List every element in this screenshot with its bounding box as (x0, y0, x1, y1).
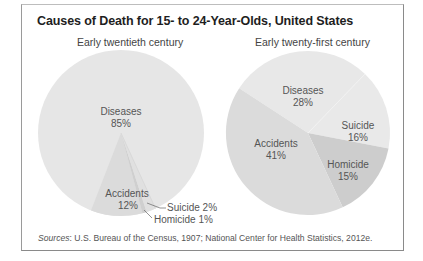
right-label-suicide-name: Suicide (342, 120, 375, 131)
source-prefix: Sources (38, 233, 70, 243)
pie-charts: Diseases 85% Accidents 12% Suicide 2% Ho… (0, 0, 423, 261)
source-note: Sources: U.S. Bureau of the Census, 1907… (38, 233, 372, 243)
left-label-accidents-name: Accidents (105, 188, 148, 199)
right-label-homicide-pct: 15% (338, 171, 358, 182)
left-label-diseases-pct: 85% (111, 118, 131, 129)
right-label-diseases-name: Diseases (282, 85, 323, 96)
right-label-homicide-name: Homicide (327, 159, 369, 170)
left-label-diseases-name: Diseases (100, 106, 141, 117)
right-label-diseases-pct: 28% (293, 97, 313, 108)
left-label-accidents-pct: 12% (118, 200, 138, 211)
right-pie: Diseases 28% Suicide 16% Homicide 15% Ac… (226, 51, 390, 215)
left-label-homicide: Homicide 1% (154, 214, 213, 225)
source-text: : U.S. Bureau of the Census, 1907; Natio… (70, 233, 373, 243)
right-label-accidents-name: Accidents (254, 138, 297, 149)
right-label-accidents-pct: 41% (266, 150, 286, 161)
left-pie: Diseases 85% Accidents 12% Suicide 2% Ho… (38, 50, 217, 225)
right-label-suicide-pct: 16% (348, 132, 368, 143)
left-label-suicide: Suicide 2% (167, 202, 217, 213)
